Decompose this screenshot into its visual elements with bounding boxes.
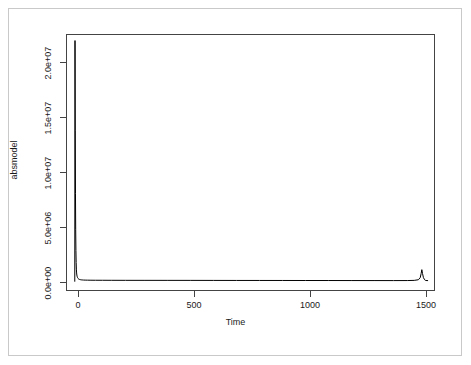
x-tick-2 bbox=[310, 291, 311, 297]
y-tick-label-3: 1.5e+07 bbox=[43, 94, 53, 142]
x-axis-title: Time bbox=[0, 317, 471, 327]
plot-figure: 0.0e+00 5.0e+06 1.0e+07 1.5e+07 2.0e+07 … bbox=[0, 0, 471, 365]
y-tick-label-0: 0.0e+00 bbox=[43, 259, 53, 307]
x-tick-3 bbox=[426, 291, 427, 297]
y-tick-0 bbox=[60, 282, 66, 283]
y-tick-label-2: 1.0e+07 bbox=[43, 149, 53, 197]
y-tick-3 bbox=[60, 117, 66, 118]
x-tick-label-0: 0 bbox=[54, 300, 102, 310]
y-tick-2 bbox=[60, 172, 66, 173]
x-tick-label-3: 1500 bbox=[402, 300, 450, 310]
x-tick-1 bbox=[194, 291, 195, 297]
x-tick-0 bbox=[78, 291, 79, 297]
x-tick-label-1: 500 bbox=[170, 300, 218, 310]
absmodel-line bbox=[75, 41, 428, 282]
data-line-series bbox=[66, 34, 435, 291]
x-tick-label-2: 1000 bbox=[286, 300, 334, 310]
y-axis-title: absmodel bbox=[9, 130, 19, 190]
y-tick-label-1: 5.0e+06 bbox=[43, 204, 53, 252]
y-tick-4 bbox=[60, 62, 66, 63]
y-tick-label-4: 2.0e+07 bbox=[43, 39, 53, 87]
y-tick-1 bbox=[60, 227, 66, 228]
